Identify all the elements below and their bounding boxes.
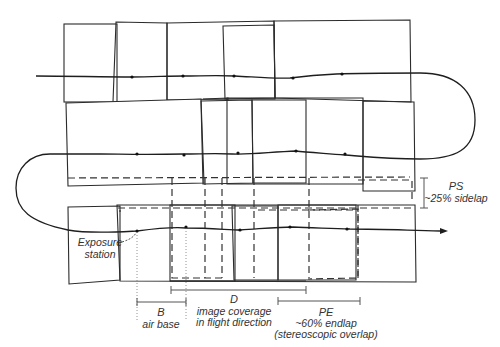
exposure-station <box>291 76 294 79</box>
exposure-station <box>288 225 291 228</box>
image-frame <box>167 21 275 100</box>
image-frame <box>66 99 204 186</box>
exposure-station <box>135 152 138 155</box>
exposure-station <box>236 151 239 154</box>
exposure-station <box>130 75 133 78</box>
exposure-station <box>232 74 235 77</box>
image-frame <box>223 25 275 99</box>
image-frame <box>227 98 363 184</box>
exposure-station <box>340 72 343 75</box>
image-coverage-dimension <box>171 286 306 294</box>
d-symbol: D <box>230 293 238 305</box>
ps-sidelap-label: ~25% sidelap <box>424 192 487 204</box>
air-base-label: air base <box>142 318 180 330</box>
dashed-footprint <box>358 180 412 200</box>
exposure-station <box>343 152 346 155</box>
stereoscopic-overlap-label: (stereoscopic overlap) <box>274 328 377 340</box>
exposure-label-line2: station <box>85 248 116 260</box>
exposure-station <box>345 227 348 230</box>
image-frame <box>278 205 356 280</box>
image-frame <box>252 100 306 183</box>
b-symbol: B <box>157 306 164 318</box>
exposure-station <box>181 74 184 77</box>
exposure-station <box>238 228 241 231</box>
flight-direction-arrow <box>440 228 448 234</box>
exposure-station <box>182 153 185 156</box>
air-base-dimension <box>137 298 186 306</box>
image-coverage-label-line2: in flight direction <box>196 316 272 328</box>
image-frame <box>274 20 411 102</box>
exposure-station-leader <box>122 233 136 242</box>
image-frame <box>64 24 117 102</box>
image-frame <box>170 205 235 281</box>
image-frame <box>113 22 167 102</box>
strip-1-frames <box>64 20 411 102</box>
strip-2-frames <box>66 98 415 191</box>
flight-plan-diagram: PS ~25% sidelap Exposure station B air b… <box>0 0 500 347</box>
image-frame <box>117 205 416 282</box>
endlap-dimension <box>278 297 360 305</box>
exposure-label-line1: Exposure <box>78 236 123 248</box>
image-frame <box>232 206 278 280</box>
ps-symbol: PS <box>449 180 464 192</box>
dashed-footprint <box>308 209 358 279</box>
exposure-station <box>294 149 297 152</box>
